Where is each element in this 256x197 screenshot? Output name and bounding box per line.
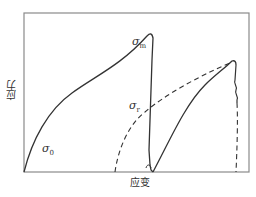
label-sigma-m: σm — [132, 36, 146, 50]
stress-strain-diagram — [0, 0, 256, 197]
curve-dashed-reloading — [115, 62, 232, 172]
curve-solid-reloading — [153, 61, 236, 172]
label-sigma-r: σr — [129, 100, 140, 114]
y-axis-label: 应力 — [7, 80, 17, 100]
x-axis-label: 应变 — [130, 178, 150, 188]
label-sigma-0: σ0 — [42, 143, 54, 157]
curve-wavy-drop — [235, 65, 238, 103]
curve-dashed-drop — [236, 103, 237, 172]
